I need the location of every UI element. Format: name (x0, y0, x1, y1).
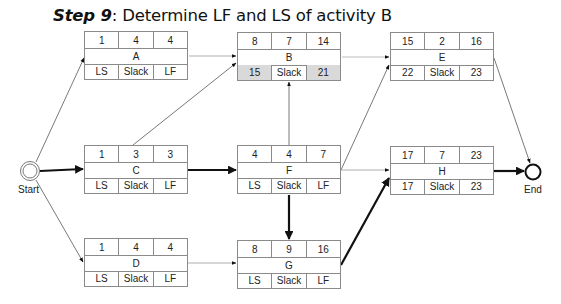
late-finish: LF (154, 178, 187, 193)
early-start: 1 (85, 32, 119, 48)
late-start: 22 (391, 65, 425, 80)
early-start: 1 (85, 239, 119, 255)
duration: 4 (119, 32, 153, 48)
activity-name: E (391, 49, 493, 65)
late-finish: LF (307, 178, 340, 193)
early-finish: 16 (307, 241, 340, 257)
slack: Slack (272, 178, 306, 193)
early-start: 17 (391, 147, 425, 163)
edge-start-c (40, 169, 83, 171)
late-start: LS (238, 273, 272, 288)
end-label: End (524, 184, 542, 195)
late-start: LS (238, 178, 272, 193)
start-event-icon (21, 162, 40, 181)
late-start: LS (85, 64, 119, 79)
duration: 9 (272, 241, 306, 257)
slack: Slack (119, 178, 153, 193)
end-event-icon (526, 165, 541, 180)
duration: 2 (425, 33, 459, 49)
activity-node-d: 144 D LSSlackLF (84, 238, 188, 287)
early-start: 8 (238, 241, 272, 257)
late-finish: 23 (460, 65, 493, 80)
activity-node-h: 17723 H 17Slack23 (390, 146, 494, 195)
early-start: 4 (238, 146, 272, 162)
late-start: LS (85, 178, 119, 193)
slack: Slack (425, 179, 459, 194)
early-finish: 4 (154, 32, 187, 48)
activity-name: A (85, 48, 187, 64)
early-finish: 14 (307, 33, 340, 49)
slack: Slack (119, 64, 153, 79)
late-finish: 23 (460, 179, 493, 194)
duration: 3 (119, 146, 153, 162)
early-finish: 7 (307, 146, 340, 162)
late-finish: LF (154, 271, 187, 286)
early-start: 15 (391, 33, 425, 49)
duration: 4 (272, 146, 306, 162)
late-finish: LF (154, 64, 187, 79)
duration: 7 (272, 33, 306, 49)
activity-node-b: 8714 B 15Slack21 (237, 32, 341, 81)
activity-name: H (391, 163, 493, 179)
early-start: 8 (238, 33, 272, 49)
activity-name: B (238, 49, 340, 65)
activity-name: C (85, 162, 187, 178)
slack: Slack (425, 65, 459, 80)
slack: Slack (272, 65, 306, 80)
edge-f-e (341, 65, 389, 170)
late-finish: LF (307, 273, 340, 288)
early-finish: 23 (460, 147, 493, 163)
activity-node-f: 447 F LSSlackLF (237, 145, 341, 194)
edge-start-d (36, 180, 83, 262)
activity-node-c: 133 C LSSlackLF (84, 145, 188, 194)
activity-node-g: 8916 G LSSlackLF (237, 240, 341, 289)
activity-node-e: 15216 E 22Slack23 (390, 32, 494, 81)
late-start: LS (85, 271, 119, 286)
early-finish: 3 (154, 146, 187, 162)
early-start: 1 (85, 146, 119, 162)
duration: 4 (119, 239, 153, 255)
activity-name: D (85, 255, 187, 271)
late-start: 15 (238, 65, 272, 80)
late-start: 17 (391, 179, 425, 194)
edge-e-end (494, 58, 530, 163)
duration: 7 (425, 147, 459, 163)
early-finish: 4 (154, 239, 187, 255)
edge-g-h (341, 178, 389, 265)
early-finish: 16 (460, 33, 493, 49)
edge-start-a (36, 58, 84, 162)
activity-node-a: 144 A LSSlackLF (84, 31, 188, 80)
activity-name: F (238, 162, 340, 178)
slack: Slack (272, 273, 306, 288)
activity-name: G (238, 257, 340, 273)
start-label: Start (18, 184, 39, 195)
late-finish: 21 (307, 65, 340, 80)
slack: Slack (119, 271, 153, 286)
